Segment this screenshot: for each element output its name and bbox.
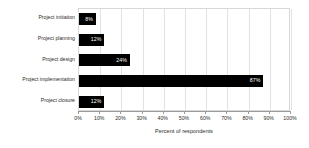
x-tick-label: 50% bbox=[179, 116, 189, 121]
bar-row: 12% bbox=[79, 91, 289, 112]
bar-rows: 8%12%24%87%12% bbox=[79, 9, 289, 110]
x-tick-mark bbox=[99, 111, 100, 114]
x-tick-label: 90% bbox=[264, 116, 274, 121]
x-tick-label: 30% bbox=[136, 116, 146, 121]
bar: 24% bbox=[79, 54, 130, 66]
plot-area: 8%12%24%87%12% bbox=[78, 8, 290, 111]
bar-row: 8% bbox=[79, 9, 289, 30]
gridline bbox=[291, 9, 292, 110]
x-tick-label: 10% bbox=[94, 116, 104, 121]
bar-row: 12% bbox=[79, 30, 289, 51]
category-label: Project design bbox=[42, 57, 75, 62]
x-tick-mark bbox=[120, 111, 121, 114]
x-tick-label: 60% bbox=[200, 116, 210, 121]
category-label: Project implementation bbox=[22, 77, 75, 82]
bar-value-label: 8% bbox=[85, 17, 96, 22]
x-tick-mark bbox=[205, 111, 206, 114]
bar: 87% bbox=[79, 75, 263, 87]
x-tick-mark bbox=[163, 111, 164, 114]
x-tick-mark bbox=[184, 111, 185, 114]
x-tick-mark bbox=[142, 111, 143, 114]
bar: 8% bbox=[79, 13, 96, 25]
bar-value-label: 12% bbox=[91, 99, 105, 104]
bar-chart-figure: 8%12%24%87%12% Project initiationProject… bbox=[0, 0, 309, 148]
x-tick-label: 20% bbox=[115, 116, 125, 121]
x-tick-mark bbox=[290, 111, 291, 114]
bar-value-label: 87% bbox=[250, 78, 264, 83]
x-tick-mark bbox=[269, 111, 270, 114]
x-tick-mark bbox=[248, 111, 249, 114]
bar-value-label: 12% bbox=[91, 37, 105, 42]
bar-row: 87% bbox=[79, 71, 289, 92]
bar-value-label: 24% bbox=[116, 58, 130, 63]
bar: 12% bbox=[79, 34, 104, 46]
category-label: Project initiation bbox=[38, 15, 75, 20]
x-tick-label: 100% bbox=[283, 116, 296, 121]
x-axis-title: Percent of respondents bbox=[78, 129, 290, 135]
bar-row: 24% bbox=[79, 50, 289, 71]
x-tick-label: 70% bbox=[221, 116, 231, 121]
x-tick-mark bbox=[226, 111, 227, 114]
x-tick-mark bbox=[78, 111, 79, 114]
category-label: Project planning bbox=[38, 36, 75, 41]
x-tick-label: 40% bbox=[158, 116, 168, 121]
x-tick-label: 0% bbox=[74, 116, 82, 121]
category-label: Project closure bbox=[41, 98, 75, 103]
bar: 12% bbox=[79, 96, 104, 108]
x-tick-label: 80% bbox=[242, 116, 252, 121]
